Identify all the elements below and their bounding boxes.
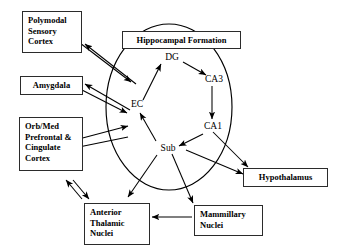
- arrow-ca1-to-hypothalamus: [213, 132, 248, 167]
- box-label-line: Orb/Med: [25, 121, 78, 132]
- box-anterior-thalamic-nuclei[interactable]: Anterior Thalamic Nuclei: [84, 203, 150, 245]
- box-label-line: Anterior: [90, 207, 145, 218]
- arrow-orb-med-cortex-to-anterior-thalamic: [73, 180, 89, 199]
- arrow-ca1-to-sub: [179, 134, 203, 146]
- node-ca1[interactable]: CA1: [204, 121, 222, 131]
- box-label-line: Cortex: [25, 153, 78, 164]
- arrow-sub-to-anterior-thalamic-nuclei: [128, 155, 157, 197]
- arrow-anterior-thalamic-to-orb-med-cortex: [66, 180, 82, 199]
- box-label-line: Thalamic: [90, 218, 145, 229]
- box-hypothalamus[interactable]: Hypothalamus: [243, 168, 328, 187]
- box-label-line: Prefrontal &: [25, 132, 78, 143]
- box-label-line: Sensory: [28, 26, 77, 37]
- diagram-canvas: Polymodal Sensory Cortex Amygdala Orb/Me…: [0, 0, 339, 251]
- box-label-line: Mammillary: [200, 209, 258, 220]
- box-label-line: Nuclei: [200, 220, 258, 231]
- box-mammillary-nuclei[interactable]: Mammillary Nuclei: [194, 205, 263, 236]
- node-ca3[interactable]: CA3: [205, 74, 223, 84]
- box-label-line: Cingulate: [25, 142, 78, 153]
- box-label-line: Polymodal: [28, 15, 77, 26]
- box-label-line: Hypothalamus: [259, 172, 312, 183]
- box-amygdala[interactable]: Amygdala: [20, 76, 83, 95]
- arrow-sub-to-ec: [140, 113, 156, 141]
- box-hippocampal-formation[interactable]: Hippocampal Formation: [122, 31, 241, 49]
- arrow-dg-to-ca3: [183, 62, 206, 75]
- node-dg[interactable]: DG: [165, 52, 179, 62]
- node-sub[interactable]: Sub: [161, 143, 176, 153]
- box-label-line: Cortex: [28, 36, 77, 47]
- arrow-ec-to-polymodal-sensory-cortex: [85, 44, 136, 84]
- box-label-line: Hippocampal Formation: [137, 35, 227, 46]
- arrow-ec-to-dg: [143, 64, 161, 100]
- arrow-sub-to-mammillary-nuclei: [172, 154, 193, 203]
- box-label-line: Amygdala: [33, 80, 70, 91]
- node-ec[interactable]: EC: [131, 99, 143, 109]
- box-orb-med-prefrontal-cingulate-cortex[interactable]: Orb/Med Prefrontal & Cingulate Cortex: [19, 117, 83, 171]
- arrow-amygdala-to-ec: [82, 90, 127, 113]
- box-label-line: Nuclei: [90, 228, 145, 239]
- box-polymodal-sensory-cortex[interactable]: Polymodal Sensory Cortex: [22, 11, 82, 53]
